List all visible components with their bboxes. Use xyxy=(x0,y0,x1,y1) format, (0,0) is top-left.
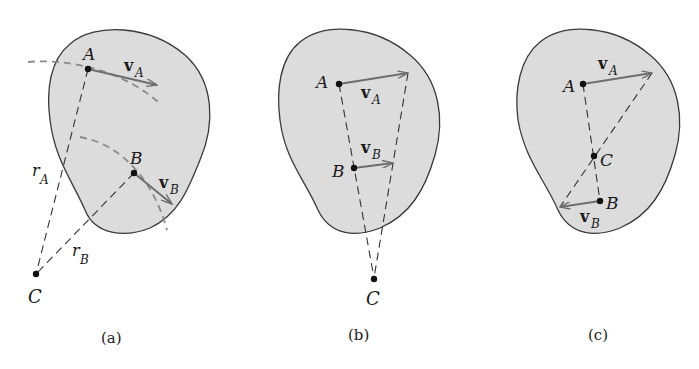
label-velocity-b: v xyxy=(360,138,371,157)
caption-b: (b) xyxy=(348,326,369,344)
label-point-b: B xyxy=(129,148,143,168)
point-a xyxy=(85,66,91,72)
point-b xyxy=(131,170,137,176)
label-velocity-a: v xyxy=(123,56,134,75)
label-velocity-a-subscript: A xyxy=(134,66,144,80)
panel-a: A B C v A v B r A r B (a) xyxy=(28,30,210,347)
label-velocity-b-subscript: B xyxy=(590,217,600,231)
label-point-b: B xyxy=(331,161,345,181)
panel-b: A B C v A v B (b) xyxy=(279,29,440,344)
label-point-a: A xyxy=(314,72,328,92)
point-b xyxy=(597,198,603,204)
point-c xyxy=(33,271,39,277)
label-radius-a-subscript: A xyxy=(39,173,49,187)
label-velocity-b: v xyxy=(158,173,169,192)
point-a xyxy=(336,81,342,87)
label-velocity-a-subscript: A xyxy=(371,93,381,107)
label-radius-b-subscript: B xyxy=(79,253,89,267)
label-point-c: C xyxy=(366,288,380,309)
label-point-a: A xyxy=(561,76,575,96)
rigid-body-instant-center-diagram: A B C v A v B r A r B (a) A B C v A v B … xyxy=(0,0,699,369)
point-c xyxy=(591,153,597,159)
rigid-body-shape xyxy=(279,29,440,233)
label-velocity-a-subscript: A xyxy=(608,64,618,78)
point-b xyxy=(351,165,357,171)
label-velocity-a: v xyxy=(597,54,608,73)
point-c xyxy=(371,276,377,282)
label-velocity-b: v xyxy=(579,207,590,226)
label-point-c: C xyxy=(600,150,613,170)
caption-a: (a) xyxy=(101,329,122,347)
label-velocity-a: v xyxy=(360,83,371,102)
panel-c: A C B v A v B (c) xyxy=(517,29,680,344)
label-velocity-b-subscript: B xyxy=(371,148,381,162)
label-point-c: C xyxy=(28,286,42,307)
point-a xyxy=(580,81,586,87)
label-velocity-b-subscript: B xyxy=(169,183,179,197)
label-point-a: A xyxy=(81,44,95,64)
label-point-b: B xyxy=(605,193,619,213)
caption-c: (c) xyxy=(588,326,608,344)
